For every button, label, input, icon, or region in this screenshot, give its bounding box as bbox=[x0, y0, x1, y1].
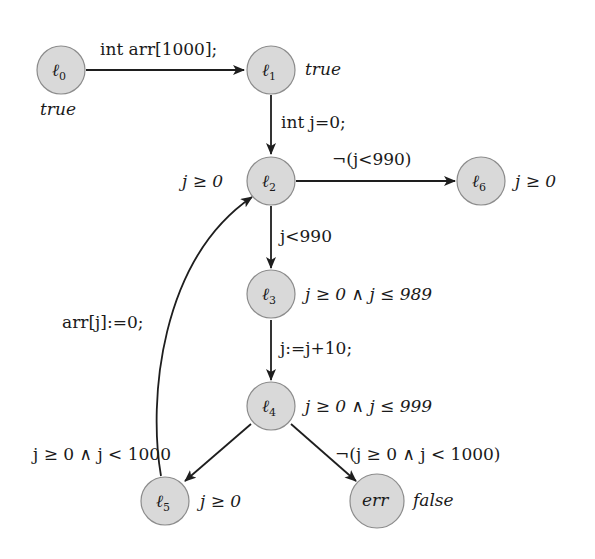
node-l1: ℓ1 true bbox=[247, 46, 341, 94]
control-flow-diagram: int arr[1000]; int j=0; ¬(j<990) j<990 j… bbox=[0, 0, 595, 559]
edge-label: ¬(j<990) bbox=[332, 149, 411, 169]
node-annotation: true bbox=[305, 59, 341, 79]
edge-label: int j=0; bbox=[281, 112, 346, 132]
node-l5: ℓ5 j ≥ 0 bbox=[141, 477, 241, 525]
node-annotation: j ≥ 0 ∧ j ≤ 989 bbox=[301, 284, 432, 304]
node-err: err false bbox=[350, 474, 454, 528]
edge-l3-l4: j:=j+10; bbox=[271, 320, 352, 380]
node-l6: ℓ6 j ≥ 0 bbox=[457, 157, 556, 205]
node-annotation: true bbox=[40, 99, 76, 119]
edge-label: arr[j]:=0; bbox=[62, 312, 143, 332]
edge-label: j<990 bbox=[278, 226, 332, 246]
edge-label: ¬(j ≥ 0 ∧ j < 1000) bbox=[335, 444, 500, 464]
edge-l1-l2: int j=0; bbox=[271, 95, 346, 154]
edge-l2-l6: ¬(j<990) bbox=[296, 149, 455, 181]
edge-label: j:=j+10; bbox=[278, 338, 352, 358]
svg-text:err: err bbox=[362, 490, 389, 510]
edge-l4-l5: j ≥ 0 ∧ j < 1000 bbox=[31, 424, 251, 481]
node-annotation: j ≥ 0 bbox=[178, 171, 223, 191]
edge-label: j ≥ 0 ∧ j < 1000 bbox=[31, 444, 171, 464]
node-annotation: j ≥ 0 bbox=[511, 171, 556, 191]
edge-l2-l3: j<990 bbox=[271, 206, 332, 268]
edge-label: int arr[1000]; bbox=[100, 39, 217, 59]
node-annotation: j ≥ 0 ∧ j ≤ 999 bbox=[301, 396, 432, 416]
node-l2: ℓ2 j ≥ 0 bbox=[178, 157, 295, 205]
node-annotation: j ≥ 0 bbox=[196, 491, 241, 511]
node-annotation: false bbox=[411, 490, 454, 510]
node-l4: ℓ4 j ≥ 0 ∧ j ≤ 999 bbox=[247, 382, 432, 430]
edge-l5-l2: arr[j]:=0; bbox=[62, 197, 252, 476]
node-l0: ℓ0 true bbox=[37, 46, 85, 119]
edge-l4-err: ¬(j ≥ 0 ∧ j < 1000) bbox=[291, 424, 500, 481]
edge-l0-l1: int arr[1000]; bbox=[86, 39, 244, 70]
node-l3: ℓ3 j ≥ 0 ∧ j ≤ 989 bbox=[247, 270, 432, 318]
